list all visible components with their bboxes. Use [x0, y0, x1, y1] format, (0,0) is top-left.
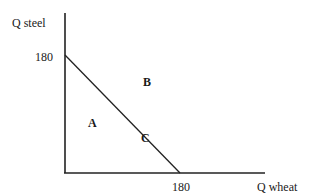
x-axis-label: Q wheat	[257, 181, 297, 193]
ppf-diagram	[0, 0, 314, 196]
point-c-label: C	[141, 132, 150, 144]
x-tick-label: 180	[172, 181, 190, 193]
point-a-label: A	[88, 117, 97, 129]
frontier-line	[65, 55, 180, 173]
y-tick-label: 180	[35, 51, 53, 63]
point-b-label: B	[143, 76, 151, 88]
y-axis-label: Q steel	[12, 17, 46, 29]
